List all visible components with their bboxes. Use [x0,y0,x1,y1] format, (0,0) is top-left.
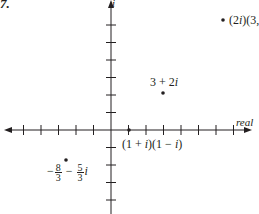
left-arrow-icon [4,127,12,133]
axes-canvas: i real [0,0,259,214]
fraction: 83 [55,163,62,182]
real-axis-label: real [236,116,253,128]
point-label-p4: −83 − 53i [47,163,88,182]
point-label-p3: (1 + i)(1 − i) [122,138,182,150]
point-label-p2: 3 + 2i [150,76,178,88]
point-marker-p4 [64,158,68,162]
imaginary-axis-label: i [112,0,115,9]
point-marker-p3 [127,128,131,132]
point-label-p1: (2i)(3, −52i) [229,12,259,31]
problem-number: 7. [0,0,10,12]
complex-plane-diagram: 7. i real (2i)(3, −52i) 3 + 2i (1 + i)(1… [0,0,259,214]
fraction: 53 [77,163,84,182]
point-marker-p1 [221,18,225,22]
point-marker-p2 [161,91,165,95]
